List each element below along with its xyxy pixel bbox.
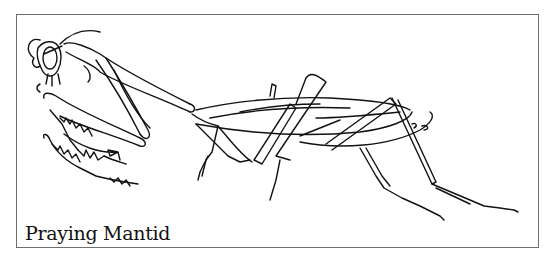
- illustration-caption: Praying Mantid: [25, 222, 170, 244]
- raptorial-forelegs: [44, 58, 150, 186]
- legs: [192, 75, 518, 220]
- prothorax: [64, 43, 195, 112]
- head: [28, 31, 100, 92]
- abdomen-wings: [196, 98, 432, 146]
